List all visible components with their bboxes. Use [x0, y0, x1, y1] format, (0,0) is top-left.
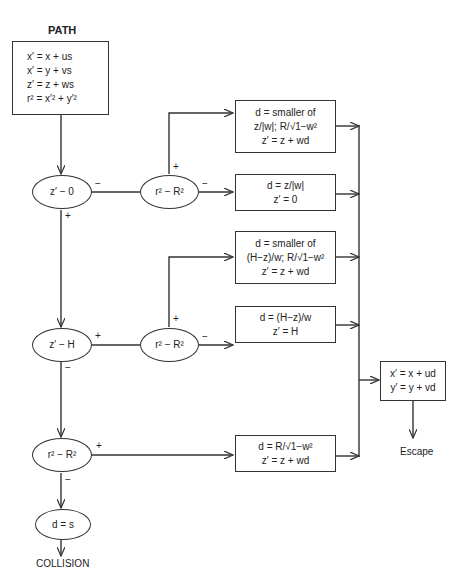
path-line-2: x′ = y + vs — [27, 64, 72, 78]
sign-rR3-minus: − — [65, 474, 71, 485]
sign-rR2-minus: − — [202, 331, 208, 342]
box5-line-1: d = R/√1−w² — [258, 440, 312, 454]
decision-r-R-3: r² − R² — [32, 438, 92, 472]
path-line-3: z′ = z + ws — [27, 78, 74, 92]
result-d-s: d = s — [35, 509, 91, 540]
collision-label: COLLISION — [36, 558, 89, 569]
result-box-1: d = smaller of z/|w|; R/√1−w² z′ = z + w… — [235, 100, 336, 153]
box1-line-2: z/|w|; R/√1−w² — [254, 120, 317, 134]
path-line-1: x′ = x + us — [27, 50, 72, 64]
box3-line-1: d = smaller of — [255, 237, 315, 251]
box3-line-3: z′ = z + wd — [262, 265, 309, 279]
escape-box: x′ = x + ud y′ = y + vd — [380, 361, 446, 401]
decision-r-R-2-label: r² − R² — [155, 338, 184, 352]
box2-line-2: z′ = 0 — [274, 193, 298, 207]
result-box-4: d = (H−z)/w z′ = H — [235, 306, 336, 343]
box5-line-2: z′ = z + wd — [262, 454, 309, 468]
sign-zH-minus: − — [65, 362, 71, 373]
path-title: PATH — [48, 24, 76, 36]
result-box-5: d = R/√1−w² z′ = z + wd — [235, 435, 336, 472]
box1-line-1: d = smaller of — [255, 106, 315, 120]
escape-label: Escape — [400, 446, 433, 457]
decision-z-H-label: z′ − H — [49, 338, 75, 352]
decision-r-R-3-label: r² − R² — [48, 448, 77, 462]
result-d-s-label: d = s — [52, 518, 74, 532]
path-box: x′ = x + us x′ = y + vs z′ = z + ws r² =… — [12, 41, 109, 115]
decision-r-R-1: r² − R² — [140, 175, 199, 209]
sign-zH-plus: + — [95, 330, 101, 341]
decision-z-zero: z′ − 0 — [32, 175, 92, 209]
sign-z0-plus: + — [65, 210, 71, 221]
box1-line-3: z′ = z + wd — [262, 134, 309, 148]
path-line-4: r² = x′² + y′² — [27, 92, 77, 106]
box2-line-1: d = z/|w| — [267, 179, 304, 193]
sign-rR2-plus: + — [173, 313, 179, 324]
sign-z0-minus: − — [95, 178, 101, 189]
sign-rR1-plus: + — [173, 161, 179, 172]
box3-line-2: (H−z)/w; R/√1−w² — [247, 251, 325, 265]
result-box-3: d = smaller of (H−z)/w; R/√1−w² z′ = z +… — [235, 231, 336, 284]
escape-line-1: x′ = x + ud — [390, 367, 436, 381]
decision-z-zero-label: z′ − 0 — [50, 185, 74, 199]
box4-line-2: z′ = H — [273, 325, 299, 339]
decision-r-R-2: r² − R² — [140, 328, 199, 362]
sign-rR3-plus: + — [96, 440, 102, 451]
decision-z-H: z′ − H — [32, 328, 92, 362]
sign-rR1-minus: − — [202, 178, 208, 189]
result-box-2: d = z/|w| z′ = 0 — [235, 174, 336, 211]
escape-line-2: y′ = y + vd — [390, 381, 435, 395]
decision-r-R-1-label: r² − R² — [155, 185, 184, 199]
box4-line-1: d = (H−z)/w — [260, 311, 312, 325]
